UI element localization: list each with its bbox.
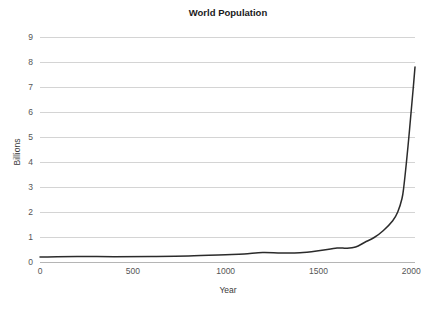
x-tick-label: 1500 bbox=[309, 266, 328, 276]
y-tick-label: 0 bbox=[28, 257, 33, 267]
y-tick-label: 8 bbox=[28, 57, 33, 67]
y-tick-label: 1 bbox=[28, 232, 33, 242]
y-tick-label: 2 bbox=[28, 207, 33, 217]
x-axis-title: Year bbox=[219, 285, 236, 295]
y-tick-label: 4 bbox=[28, 157, 33, 167]
y-tick-label: 9 bbox=[28, 32, 33, 42]
y-axis-title: Billions bbox=[12, 139, 22, 166]
x-tick-label: 1000 bbox=[216, 266, 235, 276]
chart-title: World Population bbox=[189, 7, 268, 18]
world-population-chart: World Population 0123456789 050010001500… bbox=[0, 0, 439, 309]
x-tick-label: 2000 bbox=[402, 266, 421, 276]
chart-canvas: World Population 0123456789 050010001500… bbox=[0, 0, 439, 309]
x-tick-label: 0 bbox=[38, 266, 43, 276]
y-tick-label: 5 bbox=[28, 132, 33, 142]
y-tick-label: 6 bbox=[28, 107, 33, 117]
y-tick-label: 3 bbox=[28, 182, 33, 192]
y-tick-label: 7 bbox=[28, 82, 33, 92]
chart-background bbox=[0, 0, 439, 309]
x-tick-label: 500 bbox=[126, 266, 140, 276]
